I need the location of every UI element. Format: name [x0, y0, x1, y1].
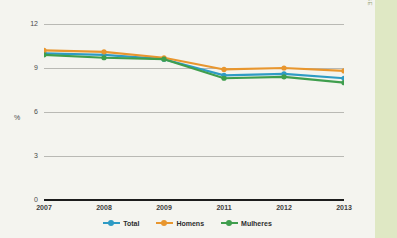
x-axis-tick-label: 2008 — [84, 204, 124, 211]
y-axis-tick-label: 12 — [12, 20, 38, 27]
y-axis-tick-label: 0 — [12, 196, 38, 203]
ibge-watermark: IBGE — [367, 0, 373, 6]
data-point — [101, 55, 106, 60]
chart-legend: TotalHomensMulheres — [0, 219, 375, 227]
data-point — [341, 68, 344, 73]
legend-item[interactable]: Total — [103, 219, 139, 227]
legend-marker-icon — [221, 219, 238, 227]
chart-figure: IBGE % 036912 200720082009201120122013 T… — [0, 0, 375, 238]
data-point — [281, 65, 286, 70]
x-axis-tick-label: 2007 — [24, 204, 64, 211]
legend-label: Mulheres — [241, 220, 272, 227]
legend-item[interactable]: Homens — [156, 219, 204, 227]
x-axis-tick-label: 2012 — [264, 204, 304, 211]
legend-marker-icon — [156, 219, 173, 227]
legend-label: Total — [123, 220, 139, 227]
x-axis-tick-label: 2013 — [324, 204, 364, 211]
y-axis-tick-label: 9 — [12, 64, 38, 71]
data-point — [101, 49, 106, 54]
data-point — [281, 74, 286, 79]
data-point — [341, 80, 344, 85]
y-axis-unit-label: % — [14, 114, 20, 121]
y-axis-tick-label: 3 — [12, 152, 38, 159]
legend-item[interactable]: Mulheres — [221, 219, 272, 227]
y-axis-tick-label: 6 — [12, 108, 38, 115]
legend-label: Homens — [176, 220, 204, 227]
x-axis-tick-label: 2009 — [144, 204, 184, 211]
data-point — [221, 67, 226, 72]
data-point — [161, 57, 166, 62]
data-point — [221, 76, 226, 81]
plot-area — [44, 24, 344, 200]
data-point — [341, 76, 344, 81]
legend-marker-icon — [103, 219, 120, 227]
x-axis-tick-label: 2011 — [204, 204, 244, 211]
